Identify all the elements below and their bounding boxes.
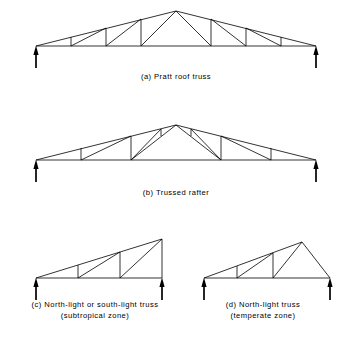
- support-arrow-head: [159, 278, 164, 288]
- support-arrow-head: [33, 46, 38, 56]
- support-reaction-right: [313, 46, 318, 69]
- web-diagonal-a-left: [81, 136, 131, 160]
- support-arrow-head: [327, 278, 332, 288]
- web-diagonal-1-right: [246, 28, 281, 46]
- panel-caption-trussed-rafter: (b) Trussed rafter: [0, 188, 352, 199]
- truss-figure: (a) Pratt roof truss(b) Trussed rafter(c…: [0, 0, 352, 338]
- support-arrow-head: [313, 46, 318, 56]
- support-reaction-left: [201, 278, 206, 301]
- web-diagonal-c-right: [191, 129, 221, 160]
- web-diagonal-2-left: [106, 19, 141, 46]
- panel-caption-line1: (a) Pratt roof truss: [141, 72, 211, 81]
- support-arrow-head: [201, 278, 206, 288]
- truss-panel-north-light-or-south-light-truss: [33, 239, 164, 300]
- panel-caption-north-light-truss: (d) North-light truss(temperate zone): [87, 300, 352, 321]
- truss-panel-pratt-roof-truss: [33, 11, 318, 68]
- support-arrow-head: [33, 278, 38, 288]
- support-arrow-head: [313, 160, 318, 170]
- left-rafter: [36, 125, 176, 160]
- support-arrow-head: [33, 160, 38, 170]
- support-reaction-left: [33, 278, 38, 301]
- web-diagonal-2: [120, 239, 162, 278]
- top-chord: [36, 239, 162, 278]
- right-rafter: [302, 242, 330, 278]
- truss-panel-trussed-rafter: [33, 125, 318, 182]
- panel-caption-line2: (temperate zone): [87, 311, 352, 322]
- panel-caption-line1: (b) Trussed rafter: [143, 188, 209, 197]
- web-diagonal-2-right: [211, 19, 246, 46]
- panel-caption-line1: (d) North-light truss: [226, 300, 300, 309]
- web-diagonal-1: [78, 252, 120, 278]
- web-diagonal-c-left: [131, 129, 161, 160]
- truss-drawing-canvas: [0, 0, 352, 338]
- support-reaction-left: [33, 46, 38, 69]
- support-reaction-left: [33, 160, 38, 183]
- web-diagonal-1-left: [71, 28, 106, 46]
- web-diagonal-a-right: [221, 136, 271, 160]
- support-reaction-right: [313, 160, 318, 183]
- panel-caption-pratt-roof-truss: (a) Pratt roof truss: [0, 72, 352, 83]
- truss-panel-north-light-truss: [201, 242, 332, 300]
- right-rafter: [176, 125, 316, 160]
- support-reaction-right: [327, 278, 332, 301]
- support-reaction-right: [159, 278, 164, 301]
- web-diagonal-1: [237, 253, 273, 278]
- web-diagonal-3-right: [176, 11, 211, 46]
- web-diagonal-3-left: [141, 11, 176, 46]
